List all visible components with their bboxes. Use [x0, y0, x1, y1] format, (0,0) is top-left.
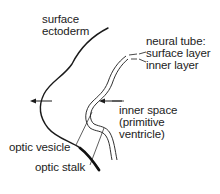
label-inner-space: inner space — [119, 104, 177, 116]
label-surface-ectoderm-line2: ectoderm — [42, 25, 89, 37]
label-ventricle: ventricle) — [119, 128, 165, 140]
label-optic-vesicle: optic vesicle — [9, 141, 70, 153]
diagram-canvas: surface ectoderm neural tube: surface la… — [0, 0, 220, 194]
leader-surface-layer-2 — [139, 52, 146, 54]
diagram-drawing — [0, 0, 220, 194]
leader-optic-vesicle — [76, 112, 92, 145]
label-optic-stalk: optic stalk — [35, 161, 85, 173]
leader-surface-layer — [129, 54, 137, 55]
label-primitive: (primitive — [119, 116, 165, 128]
label-neural-tube: neural tube: — [146, 35, 206, 47]
leader-optic-stalk — [90, 128, 104, 165]
leader-inner-layer-2 — [139, 59, 146, 62]
label-surface-layer: surface layer — [146, 47, 211, 59]
label-surface-ectoderm-line1: surface — [42, 13, 79, 25]
inner-arrow-icon — [99, 99, 122, 104]
label-inner-layer: inner layer — [146, 59, 199, 71]
